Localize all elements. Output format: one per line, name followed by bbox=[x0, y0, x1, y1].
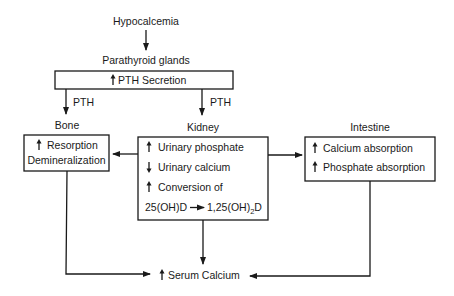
intestine-line-phosphate-absorption: Phosphate absorption bbox=[323, 161, 425, 173]
bone-header: Bone bbox=[55, 119, 80, 131]
pth-secretion-label: PTH Secretion bbox=[118, 74, 186, 86]
kidney-line-urinary-phosphate: Urinary phosphate bbox=[158, 141, 244, 153]
hypocalcemia-pth-flowchart: Hypocalcemia Parathyroid glands PTH Secr… bbox=[0, 0, 454, 296]
up-arrow-icon bbox=[160, 269, 165, 280]
parathyroid-glands-label: Parathyroid glands bbox=[102, 54, 190, 66]
kidney-header: Kidney bbox=[187, 121, 220, 133]
conversion-from: 25(OH)D bbox=[145, 201, 187, 213]
bone-line-demineralization: Demineralization bbox=[27, 154, 105, 166]
pth-edge-label-left: PTH bbox=[73, 96, 94, 108]
serum-calcium-label: Serum Calcium bbox=[168, 269, 240, 281]
hypocalcemia-label: Hypocalcemia bbox=[113, 15, 179, 27]
bone-line-resorption: Resorption bbox=[47, 139, 98, 151]
kidney-line-conversion: Conversion of bbox=[158, 181, 223, 193]
intestine-header: Intestine bbox=[350, 121, 390, 133]
intestine-line-calcium-absorption: Calcium absorption bbox=[323, 142, 413, 154]
kidney-line-urinary-calcium: Urinary calcium bbox=[158, 161, 231, 173]
pth-edge-label-right: PTH bbox=[210, 96, 231, 108]
